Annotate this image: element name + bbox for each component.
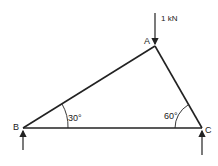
angle-label-c: 60° [164,111,178,121]
node-label-b: B [13,122,19,132]
member-ab [23,46,155,128]
node-label-c: C [205,125,212,135]
member-ac [155,46,202,128]
angle-label-b: 30° [68,113,82,123]
load-label: 1 kN [161,14,178,23]
node-label-a: A [144,36,150,46]
truss-diagram: 1 kN A B C 30° 60° [0,0,218,166]
